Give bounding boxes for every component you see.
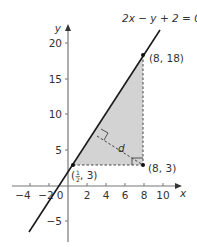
coordinate-diagram: −4 −2 0 2 4 6 8 10 x 20 15 10 5 −5 y 2x …: [0, 0, 197, 247]
point-label-8-18: (8, 18): [149, 52, 184, 64]
svg-text:, 3): , 3): [80, 169, 97, 181]
x-tick-label: 8: [141, 189, 148, 201]
point-8-3: [141, 163, 145, 167]
y-tick-label: 15: [49, 73, 62, 85]
point-half-3: [71, 163, 75, 167]
x-tick-label: −2: [38, 189, 53, 201]
y-tick-label: 10: [49, 108, 62, 120]
x-tick-label: 10: [156, 189, 169, 201]
y-tick-label: 20: [49, 37, 62, 49]
distance-label: d: [118, 142, 125, 154]
y-axis-label: y: [54, 22, 62, 34]
origin-label: 0: [57, 189, 64, 201]
y-axis-arrow-icon: [65, 24, 71, 31]
point-label-8-3: (8, 3): [148, 162, 176, 174]
x-tick-label: 2: [84, 189, 91, 201]
x-tick-label: −4: [15, 189, 31, 201]
point-8-18: [141, 53, 145, 57]
equation-label: 2x − y + 2 = 0: [122, 12, 197, 24]
y-tick-label: 5: [55, 144, 62, 156]
point-label-half-3: ( 1 2 , 3): [71, 169, 97, 183]
x-tick-label: 4: [103, 189, 110, 201]
x-axis-label: x: [179, 187, 187, 199]
svg-text:(: (: [71, 169, 75, 181]
y-tick-label: −5: [47, 215, 62, 227]
x-tick-label: 6: [122, 189, 129, 201]
